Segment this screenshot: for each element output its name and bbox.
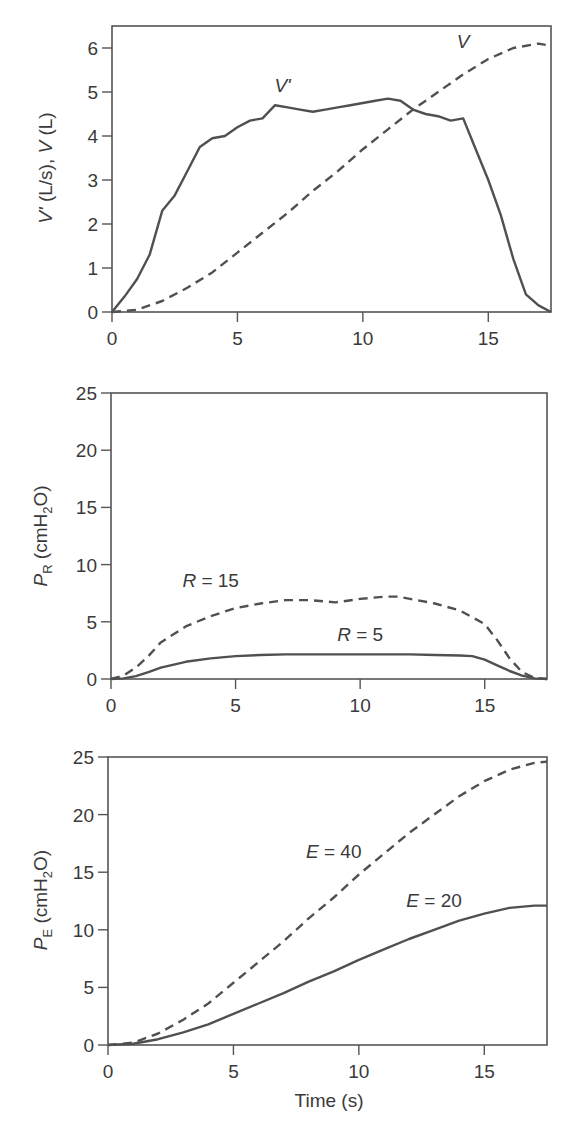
y-tick-label: 25 (73, 747, 94, 768)
annotation-v-prime: V' (274, 75, 292, 96)
y-tick-label: 5 (86, 612, 97, 633)
y-tick-label: 25 (76, 383, 97, 404)
plot-area: 0510150123456 (87, 26, 551, 349)
x-tick-label: 10 (348, 1061, 369, 1082)
x-tick-label: 10 (350, 695, 371, 716)
y-tick-label: 2 (87, 214, 98, 235)
resistive-pressure-panel: 0510150510152025 PR (cmH2O) R = 15 R = 5 (30, 383, 547, 716)
x-tick-label: 5 (228, 1061, 239, 1082)
x-tick-label: 0 (106, 695, 117, 716)
y-tick-label: 5 (83, 977, 94, 998)
x-tick-label: 15 (478, 328, 499, 349)
x-tick-label: 15 (474, 1061, 495, 1082)
flow-volume-panel: 0510150123456 V' (L/s), V (L) V' V (35, 26, 551, 349)
plot-area: 0510150510152025 (73, 747, 547, 1082)
series-line-e-40 (108, 762, 547, 1045)
series-line-e-20 (108, 906, 547, 1045)
annotation-e20: E = 20 (406, 890, 461, 911)
x-tick-label: 10 (352, 328, 373, 349)
series-line-v (112, 44, 551, 312)
annotation-v: V (457, 31, 472, 52)
y-tick-label: 20 (76, 440, 97, 461)
x-tick-label: 5 (232, 328, 243, 349)
y-tick-label: 15 (73, 862, 94, 883)
x-tick-label: 15 (474, 695, 495, 716)
series-line-v- (112, 99, 551, 312)
y-tick-label: 0 (86, 669, 97, 690)
y-tick-label: 10 (76, 555, 97, 576)
y-axis-label: PR (cmH2O) (30, 485, 55, 586)
y-axis-label: V' (L/s), V (L) (35, 112, 56, 223)
elastic-pressure-panel: 0510150510152025 PE (cmH2O) E = 40 E = 2… (30, 747, 547, 1111)
y-tick-label: 0 (87, 302, 98, 323)
x-axis-label: Time (s) (295, 1090, 364, 1111)
annotation-e40: E = 40 (306, 841, 361, 862)
x-tick-label: 5 (230, 695, 241, 716)
y-axis-label: PE (cmH2O) (30, 850, 55, 950)
y-tick-label: 20 (73, 805, 94, 826)
series-line-r-5 (111, 654, 547, 679)
plot-frame (112, 26, 551, 312)
plot-frame (108, 757, 547, 1045)
y-tick-label: 0 (83, 1035, 94, 1056)
y-tick-label: 1 (87, 258, 98, 279)
y-tick-label: 5 (87, 82, 98, 103)
y-tick-label: 3 (87, 170, 98, 191)
y-tick-label: 4 (87, 126, 98, 147)
x-tick-label: 0 (107, 328, 118, 349)
y-tick-label: 10 (73, 920, 94, 941)
y-tick-label: 6 (87, 38, 98, 59)
y-tick-label: 15 (76, 497, 97, 518)
figure: 0510150123456 V' (L/s), V (L) V' V 05101… (0, 0, 574, 1124)
plot-frame (111, 393, 547, 679)
annotation-r5: R = 5 (337, 624, 383, 645)
x-tick-label: 0 (103, 1061, 114, 1082)
series-line-r-15 (111, 597, 547, 679)
plot-area: 0510150510152025 (76, 383, 547, 716)
annotation-r15: R = 15 (182, 570, 239, 591)
